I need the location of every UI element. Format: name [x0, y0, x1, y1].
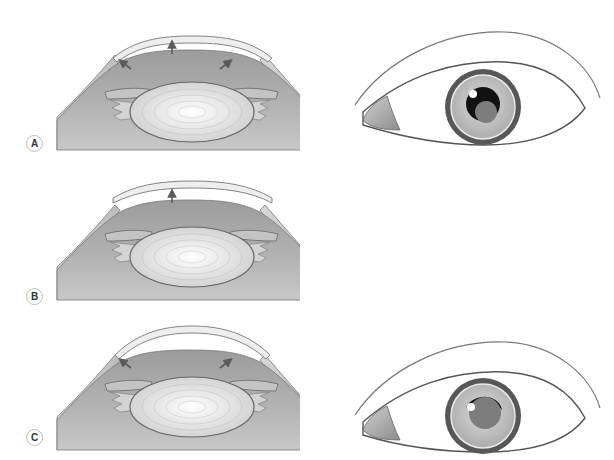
panel-c: C	[0, 310, 614, 460]
cross-section-diagram-a	[40, 0, 300, 160]
panel-label-b: B	[26, 288, 43, 305]
frontal-eye-c	[345, 320, 605, 460]
pupil	[469, 397, 501, 429]
panel-b: B	[0, 165, 614, 310]
panel-label-c: C	[26, 429, 43, 446]
panel-label-a: A	[26, 135, 43, 152]
cross-section-diagram-c	[40, 310, 300, 460]
frontal-eye-a	[345, 20, 605, 160]
cross-section-diagram-b	[40, 165, 300, 305]
panel-a: A	[0, 0, 614, 160]
